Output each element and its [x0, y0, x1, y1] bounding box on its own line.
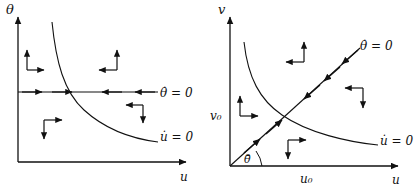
- right-arrow-pair-upper-left: [286, 42, 304, 62]
- right-y-tick-label: v₀: [210, 109, 222, 123]
- right-x-tick-label: u₀: [300, 172, 313, 186]
- right-arrow-pair-mid-left: [240, 96, 258, 116]
- right-arrow-pair-upper-right: [345, 88, 363, 108]
- right-angle-arc: [256, 151, 262, 166]
- left-y-axis-label: θ: [6, 2, 14, 17]
- right-u-dot-label: u̇ = 0: [380, 134, 413, 148]
- right-arrow-pair-lower-mid: [288, 140, 306, 159]
- left-theta-dot-label: θ̇ = 0: [160, 86, 193, 100]
- figure-canvas: θ u θ̇ = 0 u̇ = 0: [0, 0, 416, 190]
- right-y-axis-label: v: [218, 2, 226, 17]
- left-u-dot-nullcline: [52, 22, 158, 142]
- left-arrow-pair-lower-left: [44, 120, 62, 139]
- left-u-dot-label: u̇ = 0: [160, 130, 193, 144]
- left-arrow-pair-lower-right: [126, 105, 143, 123]
- right-x-axis-label: u: [392, 173, 400, 187]
- right-phase-plot: v u v₀ u₀ u̇ = 0 θ̇ = 0: [208, 0, 416, 190]
- right-theta-dot-label: θ̇ = 0: [360, 39, 393, 53]
- right-angle-label: θ̄: [244, 153, 251, 166]
- left-x-axis-label: u: [180, 170, 188, 184]
- left-phase-plot: θ u θ̇ = 0 u̇ = 0: [0, 0, 208, 190]
- left-arrow-pair-upper-left: [27, 50, 44, 70]
- left-arrow-pair-upper-right: [99, 50, 117, 70]
